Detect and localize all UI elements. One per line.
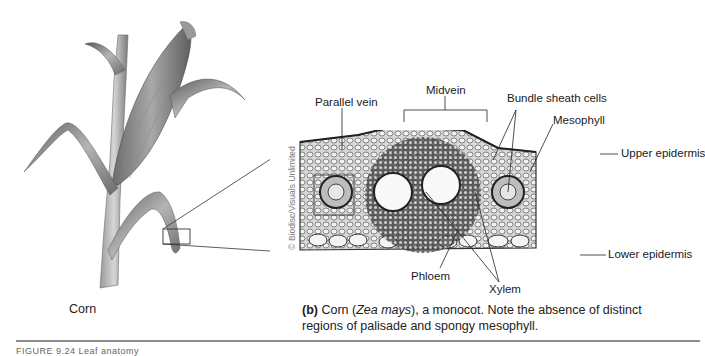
species-name: Zea mays bbox=[356, 303, 411, 317]
label-bundle-sheath-cells: Bundle sheath cells bbox=[507, 92, 607, 104]
caption-part-letter: (b) bbox=[302, 303, 318, 317]
figure-caption: (b) Corn (Zea mays), a monocot. Note the… bbox=[302, 302, 642, 334]
label-midvein: Midvein bbox=[426, 84, 466, 96]
label-parallel-vein: Parallel vein bbox=[315, 96, 378, 108]
figure-label: FIGURE 9.24 Leaf anatomy bbox=[16, 346, 139, 356]
label-upper-epidermis: Upper epidermis bbox=[621, 147, 705, 159]
divider-rule bbox=[16, 340, 700, 342]
label-xylem: Xylem bbox=[489, 283, 521, 295]
label-mesophyll: Mesophyll bbox=[553, 114, 605, 126]
label-lower-epidermis: Lower epidermis bbox=[608, 248, 692, 260]
label-phloem: Phloem bbox=[411, 270, 450, 282]
